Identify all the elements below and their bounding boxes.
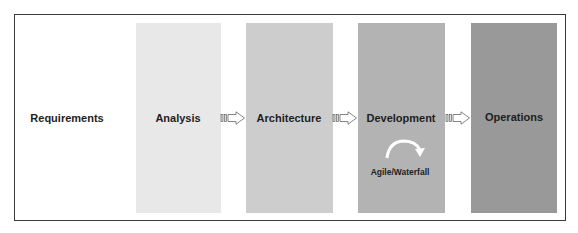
stage-architecture-label: Architecture [257,112,322,124]
development-method-label: Agile/Waterfall [371,167,430,177]
stage-requirements-label: Requirements [30,112,103,124]
stage-analysis-label: Analysis [155,112,200,124]
block-arrow-right-icon [332,111,358,125]
stage-development-label: Development [366,112,435,124]
stage-operations-label: Operations [485,111,543,123]
block-arrow-right-icon [445,111,471,125]
block-arrow-right-icon [220,111,246,125]
curved-arrow-icon [383,138,427,160]
